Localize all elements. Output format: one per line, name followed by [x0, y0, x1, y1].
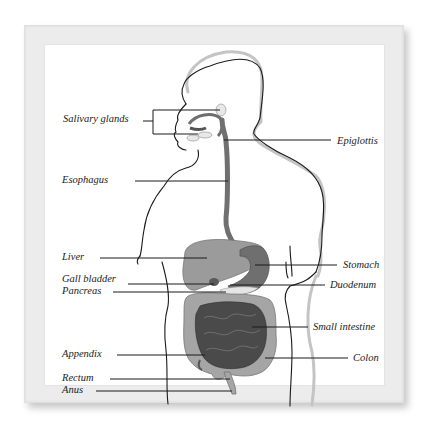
label-colon: Colon — [353, 353, 379, 364]
tongue — [190, 128, 206, 130]
gall-bladder — [209, 278, 219, 286]
label-small-intestine: Small intestine — [313, 322, 375, 333]
label-gall-bladder: Gall bladder — [62, 274, 116, 285]
label-esophagus: Esophagus — [62, 175, 108, 186]
label-anus: Anus — [62, 385, 83, 396]
label-duodenum: Duodenum — [330, 280, 376, 291]
small-intestine — [195, 302, 266, 369]
esophagus — [222, 120, 236, 248]
label-appendix: Appendix — [62, 349, 102, 360]
label-salivary-glands: Salivary glands — [63, 114, 129, 125]
label-pancreas: Pancreas — [62, 286, 101, 297]
label-epiglottis: Epiglottis — [337, 136, 378, 147]
label-stomach: Stomach — [343, 260, 379, 271]
label-rectum: Rectum — [62, 373, 94, 384]
label-liver: Liver — [62, 252, 84, 263]
